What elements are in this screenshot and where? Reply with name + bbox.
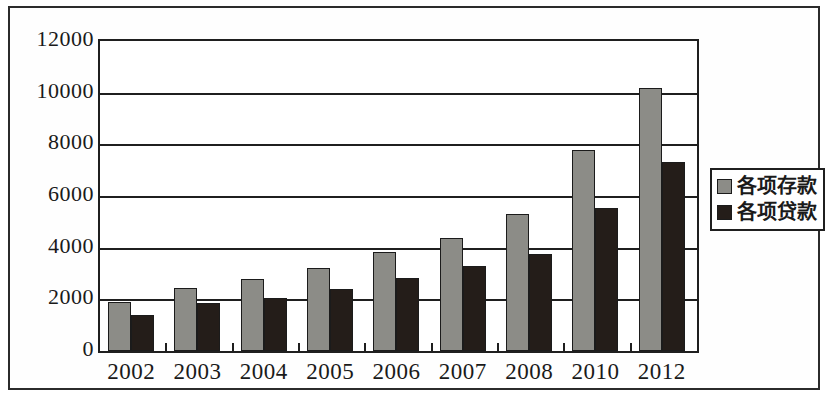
legend-swatch-deposits-icon [717, 179, 732, 194]
y-axis-tick-label: 12000 [8, 28, 94, 50]
bar-deposits [440, 238, 463, 351]
bar-loans [264, 298, 287, 351]
bar-group [432, 41, 498, 351]
y-axis-tick-label: 10000 [8, 80, 94, 102]
bar-loans [330, 289, 353, 351]
legend-item[interactable]: 各项存款 [717, 173, 817, 199]
bar-group [564, 41, 630, 351]
y-axis-tick-label: 6000 [8, 183, 94, 205]
bar-deposits [639, 88, 662, 352]
y-axis-tick-label: 0 [8, 338, 94, 360]
chart-frame: 020004000600080001000012000 200220032004… [8, 6, 820, 390]
x-axis-tick-label: 2003 [174, 359, 222, 385]
x-axis-tick-label: 2007 [439, 359, 487, 385]
y-axis: 020004000600080001000012000 [10, 39, 94, 349]
bar-deposits [307, 268, 330, 351]
bar-deposits [174, 288, 197, 351]
x-axis: 200220032004200520062007200820102012 [98, 357, 695, 391]
x-axis-tick-label: 2004 [240, 359, 288, 385]
x-axis-tick-label: 2002 [107, 359, 155, 385]
legend-label: 各项存款 [737, 175, 817, 197]
bar-loans [662, 162, 685, 351]
bar-deposits [108, 302, 131, 351]
bar-loans [463, 266, 486, 351]
bar-loans [529, 254, 552, 351]
bar-group [365, 41, 431, 351]
bar-series-container [100, 41, 697, 351]
plot-area [98, 39, 699, 353]
x-axis-tick-label: 2012 [638, 359, 686, 385]
chart-legend: 各项存款各项贷款 [710, 168, 825, 231]
bar-loans [197, 303, 220, 351]
x-axis-tick-label: 2008 [505, 359, 553, 385]
y-axis-tick-label: 8000 [8, 131, 94, 153]
bar-loans [131, 315, 154, 351]
y-axis-tick-label: 4000 [8, 235, 94, 257]
legend-label: 各项贷款 [737, 201, 817, 223]
bar-deposits [373, 252, 396, 351]
bar-group [166, 41, 232, 351]
bar-group [498, 41, 564, 351]
legend-item[interactable]: 各项贷款 [717, 199, 817, 225]
bar-loans [595, 208, 618, 351]
bar-deposits [241, 279, 264, 351]
bar-deposits [506, 214, 529, 351]
bar-group [299, 41, 365, 351]
bar-deposits [572, 150, 595, 352]
bar-loans [396, 278, 419, 351]
x-axis-tick-label: 2010 [572, 359, 620, 385]
bar-group [233, 41, 299, 351]
legend-swatch-loans-icon [717, 205, 732, 220]
y-axis-tick-label: 2000 [8, 286, 94, 308]
bar-group [100, 41, 166, 351]
x-axis-tick-label: 2006 [373, 359, 421, 385]
bar-group [631, 41, 697, 351]
x-axis-tick-label: 2005 [306, 359, 354, 385]
